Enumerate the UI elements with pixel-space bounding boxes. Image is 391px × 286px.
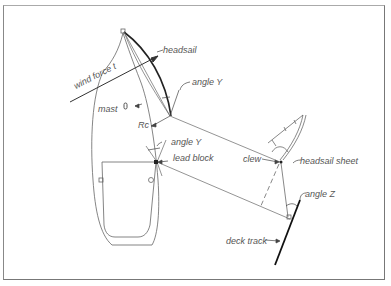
headsail-sheet-label: headsail sheet [300,156,358,166]
headsail-label: headsail [163,45,197,55]
clew-label: clew [243,154,261,164]
clew-to-track-line [281,163,291,219]
rc-label: Rc [138,120,149,130]
angle-z-marker [286,204,297,206]
mast-icon [124,103,127,109]
rc-arrow [151,116,170,127]
angle-z-label: angle Z [305,189,335,199]
dashed-construction-line [260,164,279,208]
lead-block-label: lead block [173,153,214,163]
deck-track [275,200,300,265]
clew-sail-detail [268,115,306,160]
angle-y-lower-label: angle Y [171,137,201,147]
deck-track-label: deck track [226,236,267,246]
angle-y-lower-marker [148,148,160,150]
mast-label: mast [98,104,118,114]
sheet-lines [146,116,290,219]
angle-y-top-label: angle Y [192,77,222,87]
